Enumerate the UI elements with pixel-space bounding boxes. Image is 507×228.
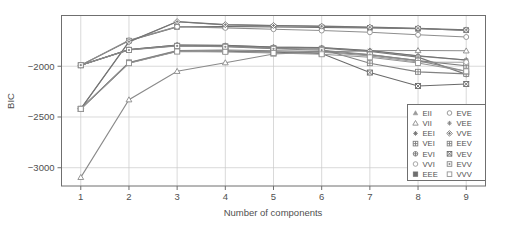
marker-circle-open2 — [416, 32, 421, 37]
y-axis-title: BIC — [5, 93, 16, 109]
marker-square-dot — [447, 162, 452, 167]
marker-square-x — [447, 152, 452, 157]
marker-square-grid — [367, 61, 372, 66]
legend-label-VVI: VVI — [423, 160, 435, 169]
x-tick-label-9: 9 — [464, 191, 469, 202]
legend-label-EVV: EVV — [457, 160, 473, 169]
marker-square-filled — [413, 172, 418, 177]
marker-asterisk-open — [447, 121, 452, 126]
marker-square-open — [223, 49, 228, 54]
legend-label-EVI: EVI — [423, 150, 435, 159]
marker-square-open — [271, 51, 276, 56]
bic-plot-container: 123456789 −2000−2500−3000 Number of comp… — [0, 0, 507, 228]
marker-circle-open2 — [464, 35, 469, 40]
marker-square-open — [78, 106, 83, 111]
marker-square-hatch — [413, 141, 418, 146]
x-tick-label-7: 7 — [367, 191, 372, 202]
marker-diamond-cross — [174, 19, 180, 25]
chart-legend[interactable]: EIIVIIEEIVEIEVIVVIEEEEVEVEEVVEEEVVEVEVVV… — [408, 105, 486, 181]
legend-label-EVE: EVE — [457, 109, 472, 118]
marker-square-open — [447, 172, 452, 177]
y-tick-label--2500: −2500 — [28, 111, 55, 122]
x-axis-title: Number of components — [224, 207, 323, 218]
legend-label-EEE: EEE — [423, 170, 438, 179]
x-tick-label-4: 4 — [223, 191, 228, 202]
x-tick-label-5: 5 — [271, 191, 276, 202]
marker-triangle-up-open — [126, 97, 132, 102]
legend-label-VEE: VEE — [457, 119, 472, 128]
x-tick-label-3: 3 — [174, 191, 179, 202]
marker-square-open — [319, 52, 324, 57]
x-tick-label-8: 8 — [415, 191, 420, 202]
bic-chart: 123456789 −2000−2500−3000 Number of comp… — [0, 0, 507, 228]
x-tick-label-1: 1 — [78, 191, 83, 202]
y-tick-label--3000: −3000 — [28, 162, 55, 173]
marker-square-dot — [126, 48, 131, 53]
legend-label-VVE: VVE — [457, 129, 472, 138]
marker-circle-open — [413, 162, 418, 167]
marker-square-grid — [447, 141, 452, 146]
marker-square-grid — [416, 69, 421, 74]
legend-label-VII: VII — [423, 119, 432, 128]
marker-square-dot — [78, 63, 83, 68]
marker-square-open — [175, 49, 180, 54]
legend-label-EEV: EEV — [457, 139, 473, 148]
x-axis: 123456789 — [78, 186, 469, 202]
marker-square-dot — [175, 43, 180, 48]
legend-label-EII: EII — [423, 109, 432, 118]
x-tick-label-2: 2 — [126, 191, 131, 202]
legend-label-VVV: VVV — [457, 170, 473, 179]
marker-square-open — [464, 69, 469, 74]
legend-box — [408, 105, 486, 181]
marker-square-open — [126, 61, 131, 66]
marker-asterisk-filled — [413, 131, 418, 136]
marker-square-x — [464, 82, 469, 87]
marker-circle-open2 — [447, 111, 452, 116]
marker-triangle-up-open — [78, 174, 84, 179]
marker-circle-cross — [413, 152, 418, 157]
x-tick-label-6: 6 — [319, 191, 324, 202]
marker-circle-open — [464, 60, 469, 65]
legend-label-VEI: VEI — [423, 139, 435, 148]
marker-square-x — [367, 70, 372, 75]
y-axis: −2000−2500−3000 — [28, 61, 62, 173]
y-tick-label--2000: −2000 — [28, 61, 55, 72]
marker-square-open — [367, 55, 372, 60]
marker-square-x — [416, 84, 421, 89]
marker-square-open — [416, 60, 421, 65]
legend-label-EEI: EEI — [423, 129, 435, 138]
legend-label-VEV: VEV — [457, 150, 473, 159]
marker-square-dot — [223, 44, 228, 49]
